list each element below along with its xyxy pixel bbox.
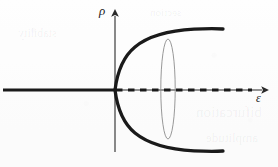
axis-label-rho: ρ [99,4,105,17]
bifurcation-plot-canvas [0,0,278,167]
bifurcation-figure: bifurcation amplitude stability section … [0,0,278,167]
stable-branch-upper [115,29,223,90]
axis-label-epsilon: ε [256,92,261,104]
stable-branch-lower [115,90,223,151]
